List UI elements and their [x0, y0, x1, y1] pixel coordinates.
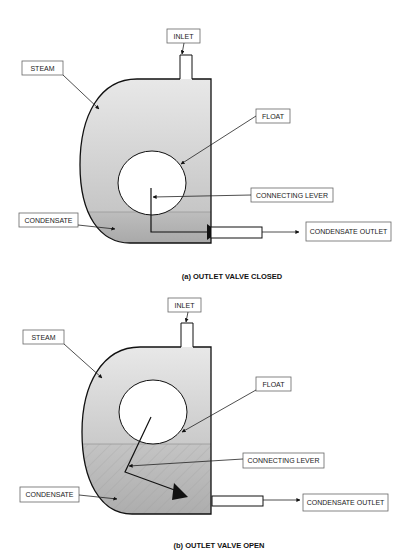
svg-text:FLOAT: FLOAT	[262, 113, 285, 120]
inlet-pipe-a	[180, 55, 192, 79]
condensate-hatch-b	[70, 444, 220, 519]
outlet-pipe-b	[212, 496, 263, 506]
float-a	[118, 151, 186, 215]
label-steam-a: STEAM	[22, 61, 99, 109]
leader-arrow-inlet-a	[182, 43, 184, 54]
svg-text:FLOAT: FLOAT	[262, 381, 285, 388]
svg-text:STEAM: STEAM	[30, 65, 54, 72]
caption-b: (b) OUTLET VALVE OPEN	[174, 541, 265, 550]
svg-text:CONDENSATE OUTLET: CONDENSATE OUTLET	[310, 228, 388, 235]
svg-text:CONDENSATE OUTLET: CONDENSATE OUTLET	[307, 499, 385, 506]
leader-arrow-inlet-b	[186, 312, 188, 322]
label-inlet-b: INLET	[168, 298, 201, 322]
svg-text:CONDENSATE: CONDENSATE	[24, 217, 72, 224]
leader-arrow-steam-a	[63, 75, 99, 109]
label-inlet-a: INLET	[167, 29, 200, 54]
steam-trap-diagram: INLET STEAM FLOAT CONNECTING LEVER CONDE…	[0, 0, 411, 551]
svg-text:INLET: INLET	[174, 33, 195, 40]
label-condensate-outlet-b: CONDENSATE OUTLET	[263, 494, 388, 511]
diagram-b-outlet-valve-open: INLET STEAM FLOAT CONNECTING LEVER CONDE…	[20, 298, 388, 550]
svg-text:CONNECTING LEVER: CONNECTING LEVER	[256, 192, 328, 199]
float-b	[119, 380, 187, 444]
caption-a: (a) OUTLET VALVE CLOSED	[182, 272, 283, 281]
inlet-pipe-b	[181, 323, 193, 347]
outlet-pipe-a	[211, 227, 262, 238]
label-steam-b: STEAM	[23, 330, 102, 378]
diagram-a-outlet-valve-closed: INLET STEAM FLOAT CONNECTING LEVER CONDE…	[19, 29, 391, 281]
leader-arrow-steam-b	[64, 344, 102, 378]
svg-text:STEAM: STEAM	[31, 334, 55, 341]
svg-text:INLET: INLET	[175, 302, 196, 309]
label-condensate-outlet-a: CONDENSATE OUTLET	[262, 222, 391, 241]
svg-text:CONDENSATE: CONDENSATE	[25, 491, 73, 498]
svg-text:CONNECTING LEVER: CONNECTING LEVER	[248, 457, 320, 464]
